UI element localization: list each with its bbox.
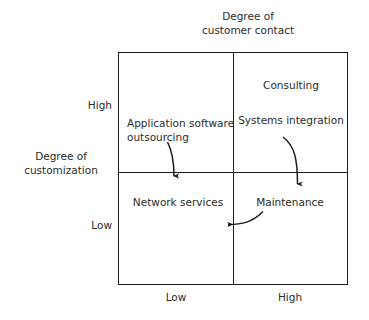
y-axis-tick-high: High <box>62 99 112 113</box>
quadrant-diagram: Degree of customer contact Degree of cus… <box>0 0 369 320</box>
quadrant-label-top-right-systems-integration: Systems integration <box>234 114 348 128</box>
x-axis-title: Degree of customer contact <box>178 10 318 37</box>
y-axis-tick-low: Low <box>62 219 112 233</box>
quadrant-label-bottom-right: Maintenance <box>240 196 340 210</box>
x-axis-tick-low: Low <box>138 291 214 305</box>
quadrant-label-top-right-consulting: Consulting <box>236 79 346 93</box>
y-axis-title: Degree of customization <box>8 150 114 177</box>
quadrant-label-bottom-left: Network services <box>124 196 232 210</box>
quadrant-label-top-left: Application software outsourcing <box>127 117 231 144</box>
x-axis-tick-high: High <box>252 291 328 305</box>
matrix-horizontal-divider <box>118 172 348 173</box>
matrix-vertical-divider <box>233 52 234 285</box>
